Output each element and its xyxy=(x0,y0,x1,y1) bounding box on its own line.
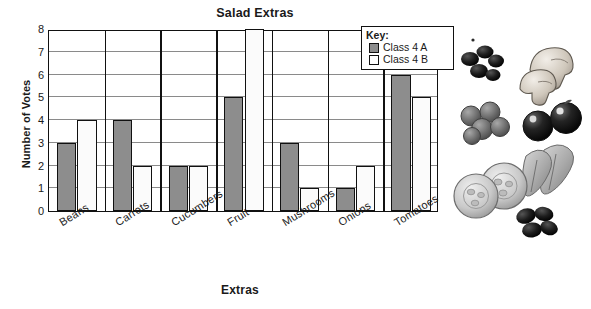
x-axis-title: Extras xyxy=(170,283,310,297)
y-tick-label: 7 xyxy=(22,47,44,58)
y-tick-label: 1 xyxy=(22,183,44,194)
bar-beans-class-4-a xyxy=(57,143,76,211)
bar-beans-class-4-b xyxy=(77,120,96,211)
x-axis-tick-labels: BeansCarrotsCucumbersFruitMushroomsOnion… xyxy=(48,212,438,282)
y-tick-label: 6 xyxy=(22,70,44,81)
legend-entry-label: Class 4 B xyxy=(383,54,428,65)
bar-chart-figure: Salad Extras Number of Votes 012345678 B… xyxy=(0,0,591,309)
y-tick-label: 3 xyxy=(22,138,44,149)
bar-cucumbers-class-4-a xyxy=(169,166,188,212)
legend-entry-label: Class 4 A xyxy=(383,42,427,53)
lettuce-leaves-image xyxy=(522,145,573,196)
black-beans-image xyxy=(514,205,560,239)
black-olives-image xyxy=(461,38,504,81)
y-tick-label: 5 xyxy=(22,92,44,103)
legend-entry-class-4-a: Class 4 A xyxy=(369,42,449,53)
y-tick-label: 8 xyxy=(22,24,44,35)
bar-fruit-class-4-a xyxy=(224,97,243,211)
legend-entry-class-4-b: Class 4 B xyxy=(369,54,449,65)
salad-clipart-group xyxy=(452,34,591,246)
y-tick-label: 0 xyxy=(22,206,44,217)
salad-clipart-svg xyxy=(452,34,591,246)
y-axis-tick-labels: 012345678 xyxy=(20,30,44,212)
y-tick-label: 4 xyxy=(22,115,44,126)
y-tick-label: 2 xyxy=(22,161,44,172)
legend-title: Key: xyxy=(366,29,449,41)
bar-mushrooms-class-4-a xyxy=(280,143,299,211)
bar-tomatoes-class-4-a xyxy=(391,75,410,212)
cherry-tomatoes-image xyxy=(523,100,582,141)
legend-key-box: Key: Class 4 AClass 4 B xyxy=(361,26,454,70)
chart-title: Salad Extras xyxy=(160,6,350,20)
bar-carrots-class-4-a xyxy=(113,120,132,211)
bar-fruit-class-4-b xyxy=(245,29,264,211)
grapes-image xyxy=(461,102,510,145)
legend-entries: Class 4 AClass 4 B xyxy=(366,42,449,65)
mushrooms-image xyxy=(520,48,573,105)
cucumber-slices-image xyxy=(454,163,527,218)
filled-gray-swatch xyxy=(369,43,379,53)
empty-white-swatch xyxy=(369,55,379,65)
